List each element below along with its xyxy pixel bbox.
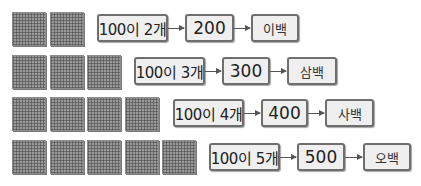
hundred-block: [87, 140, 121, 174]
hundred-block: [87, 97, 121, 131]
arrow-icon: [280, 157, 296, 158]
hundred-block: [50, 12, 84, 46]
hundred-block: [50, 140, 84, 174]
arrow-icon: [345, 157, 362, 158]
arrow-icon: [270, 71, 286, 72]
number-box: 200: [185, 14, 234, 42]
count-box: 100이 5개: [209, 143, 280, 171]
hundred-block: [50, 55, 84, 89]
hundred-block: [87, 55, 121, 89]
hundred-block: [162, 140, 196, 174]
arrow-icon: [168, 28, 184, 29]
word-box: 삼백: [287, 57, 337, 85]
hundred-block: [125, 97, 159, 131]
arrow-icon: [205, 71, 221, 72]
hundred-block: [12, 12, 46, 46]
hundred-block: [12, 140, 46, 174]
hundred-block: [50, 97, 84, 131]
count-box: 100이 3개: [134, 57, 205, 85]
arrow-icon: [234, 28, 250, 29]
word-box: 이백: [251, 14, 299, 42]
number-box: 500: [297, 143, 345, 171]
arrow-icon: [244, 113, 260, 114]
number-box: 300: [222, 57, 270, 85]
count-box: 100이 4개: [173, 99, 244, 127]
word-box: 사백: [325, 99, 374, 127]
hundred-block: [125, 140, 159, 174]
number-box: 400: [261, 99, 308, 127]
hundred-block: [12, 97, 46, 131]
hundred-block: [12, 55, 46, 89]
count-box: 100이 2개: [97, 14, 168, 42]
word-box: 오백: [363, 143, 411, 171]
arrow-icon: [308, 113, 324, 114]
